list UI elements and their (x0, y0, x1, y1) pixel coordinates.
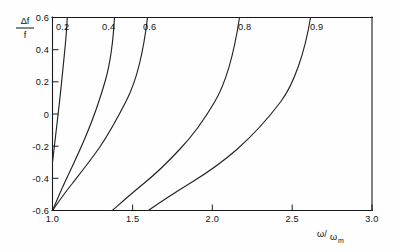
x-tick-label-1: 1.5 (126, 214, 139, 224)
x-axis-title: ω/ ω m (317, 229, 344, 244)
x-axis-title-main: ω/ (317, 229, 327, 239)
curve-0.9 (148, 18, 310, 211)
x-tick-label-2: 2.0 (206, 214, 219, 224)
y-tick-label-1: 0.4 (36, 45, 49, 55)
y-axis-title: Δf f (16, 16, 34, 40)
figure-container: 0.6 0.4 0.2 0 -0.2 -0.4 -0.6 1.0 1.5 2.0… (0, 0, 400, 252)
x-tick-marks (53, 205, 373, 211)
curve-0.6 (53, 18, 148, 211)
curve-label-0.4: 0.4 (102, 22, 115, 32)
x-axis-title-omega-sub: ω (330, 232, 337, 242)
plot-frame (52, 17, 373, 211)
y-axis-title-numerator: Δf (21, 16, 30, 26)
x-tick-label-0: 1.0 (46, 214, 59, 224)
y-tick-label-2: 0.2 (36, 77, 49, 87)
curve-label-0.9: 0.9 (310, 22, 323, 32)
curve-group (53, 18, 311, 211)
curve-label-0.2: 0.2 (56, 22, 69, 32)
curve-label-0.8: 0.8 (238, 22, 251, 32)
x-tick-label-3: 2.5 (286, 214, 299, 224)
x-tick-label-4: 3.0 (365, 214, 378, 224)
curve-labels: 0.2 0.4 0.6 0.8 0.9 (56, 22, 323, 32)
y-tick-label-5: -0.4 (32, 174, 49, 184)
y-axis-title-denominator: f (24, 30, 27, 40)
x-tick-labels: 1.0 1.5 2.0 2.5 3.0 (46, 214, 379, 224)
curve-0.2 (53, 18, 68, 163)
y-tick-label-3: 0 (44, 110, 49, 120)
y-tick-label-4: -0.2 (32, 142, 49, 152)
y-tick-label-0: 0.6 (36, 13, 49, 23)
curve-0.4 (53, 18, 115, 211)
chart-svg: 0.6 0.4 0.2 0 -0.2 -0.4 -0.6 1.0 1.5 2.0… (0, 0, 400, 252)
curve-0.8 (112, 18, 239, 211)
curve-label-0.6: 0.6 (143, 22, 156, 32)
y-tick-labels: 0.6 0.4 0.2 0 -0.2 -0.4 -0.6 (32, 13, 49, 216)
x-axis-title-m-sub: m (338, 237, 344, 244)
